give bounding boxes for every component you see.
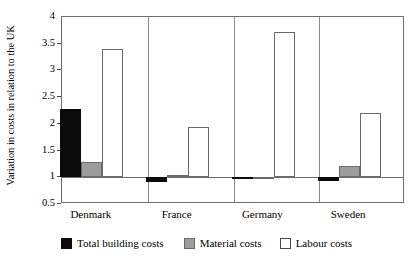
bar-sweden-total-building-costs <box>318 177 339 181</box>
legend-item-labour-costs: Labour costs <box>280 237 353 249</box>
plot-inner <box>62 17 403 202</box>
bar-sweden-labour-costs <box>360 113 381 177</box>
legend-label-total: Total building costs <box>77 237 164 249</box>
y-tick-label-1-5: 1.5 <box>42 145 55 155</box>
bar-sweden-material-costs <box>339 166 360 178</box>
legend-swatch-labour-icon <box>280 238 291 249</box>
y-tick-label-2-5: 2.5 <box>42 91 55 101</box>
x-axis-label-denmark: Denmark <box>70 206 111 222</box>
bar-germany-total-building-costs <box>232 177 253 179</box>
bar-germany-material-costs <box>253 177 274 179</box>
y-tick-label-2: 2 <box>50 118 55 128</box>
bar-france-labour-costs <box>188 127 209 177</box>
x-axis-label-germany: Germany <box>242 206 283 222</box>
bar-germany-labour-costs <box>274 32 295 177</box>
y-tick-label-4: 4 <box>50 11 55 21</box>
group-separator <box>319 17 320 202</box>
group-separator <box>148 17 149 202</box>
plot-area <box>61 16 404 203</box>
bar-chart: Variation in costs in relation to the UK… <box>0 0 415 269</box>
legend-item-material-costs: Material costs <box>184 237 262 249</box>
legend-label-labour: Labour costs <box>296 237 353 249</box>
legend-item-total-building-costs: Total building costs <box>61 237 164 249</box>
bar-denmark-labour-costs <box>102 49 123 177</box>
bar-france-material-costs <box>167 175 188 178</box>
legend-swatch-material-icon <box>184 238 195 249</box>
y-tick-label-1: 1 <box>50 171 55 181</box>
bar-denmark-material-costs <box>81 162 102 177</box>
chart-legend: Total building costs Material costs Labo… <box>61 233 411 253</box>
x-axis-category-labels: DenmarkFranceGermanySweden <box>61 206 404 224</box>
y-tick-label-3-5: 3.5 <box>42 38 55 48</box>
y-axis-tick-labels: 4 3.5 3 2.5 2 1.5 1 0.5 <box>0 0 61 269</box>
y-tick-mark <box>57 203 61 204</box>
x-axis-label-france: France <box>162 206 192 222</box>
bar-france-total-building-costs <box>146 177 167 182</box>
y-tick-label-3: 3 <box>50 64 55 74</box>
legend-swatch-total-icon <box>61 238 72 249</box>
x-axis-label-sweden: Sweden <box>331 206 366 222</box>
y-tick-label-0-5: 0.5 <box>42 198 55 208</box>
legend-label-material: Material costs <box>200 237 262 249</box>
bar-denmark-total-building-costs <box>60 109 81 177</box>
group-separator <box>234 17 235 202</box>
